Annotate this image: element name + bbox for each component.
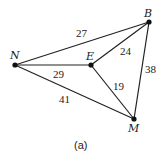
- node-B: [146, 19, 151, 24]
- edge-N-M: [15, 65, 134, 119]
- node-N: [12, 62, 17, 67]
- edge-E-M: [91, 65, 134, 119]
- node-label-N: N: [9, 49, 20, 62]
- weight-N-E: 29: [53, 68, 65, 80]
- node-E: [88, 62, 93, 67]
- node-label-E: E: [85, 50, 94, 63]
- weight-E-B: 24: [120, 45, 132, 57]
- node-label-M: M: [127, 122, 140, 135]
- node-M: [131, 116, 136, 121]
- node-label-B: B: [143, 7, 152, 20]
- weight-E-M: 19: [113, 80, 125, 92]
- edge-E-B: [91, 22, 149, 65]
- graph-diagram: N E B M 27 29 41 24 19 38 (a): [0, 0, 164, 153]
- weight-B-M: 38: [145, 63, 157, 75]
- weight-N-M: 41: [59, 93, 70, 105]
- weight-N-B: 27: [76, 27, 88, 39]
- figure-caption: (a): [74, 139, 87, 151]
